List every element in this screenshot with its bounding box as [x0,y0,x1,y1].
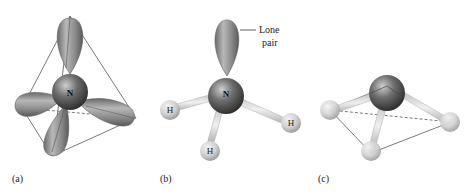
central-atom [369,75,405,111]
hydrogen-atom-right [440,112,460,132]
atom-label-h: H [207,146,214,156]
lone-pair-label-line1: Lone [259,24,280,35]
atom-label-h: H [167,105,174,115]
atom-label-n: N [223,89,230,99]
lone-pair-label-line2: pair [262,37,278,48]
panel-label-c: (c) [318,173,329,185]
molecular-geometry-figure: N (a) Lone pair N H H H (b) [0,0,471,194]
hydrogen-atom-bottom [361,141,381,161]
panel-a: N (a) [12,16,136,185]
atom-label-h: H [288,118,295,128]
hydrogen-atom-left [320,100,340,120]
orbital-lobe-top [57,18,83,74]
panel-label-a: (a) [12,173,23,185]
orbital-lobe-bottom [44,104,69,156]
atom-label-n: N [67,88,74,98]
panel-c: (c) [318,75,460,185]
panel-b: Lone pair N H H H (b) [160,20,301,185]
lone-pair-lobe [215,20,239,76]
panel-label-b: (b) [160,173,172,185]
